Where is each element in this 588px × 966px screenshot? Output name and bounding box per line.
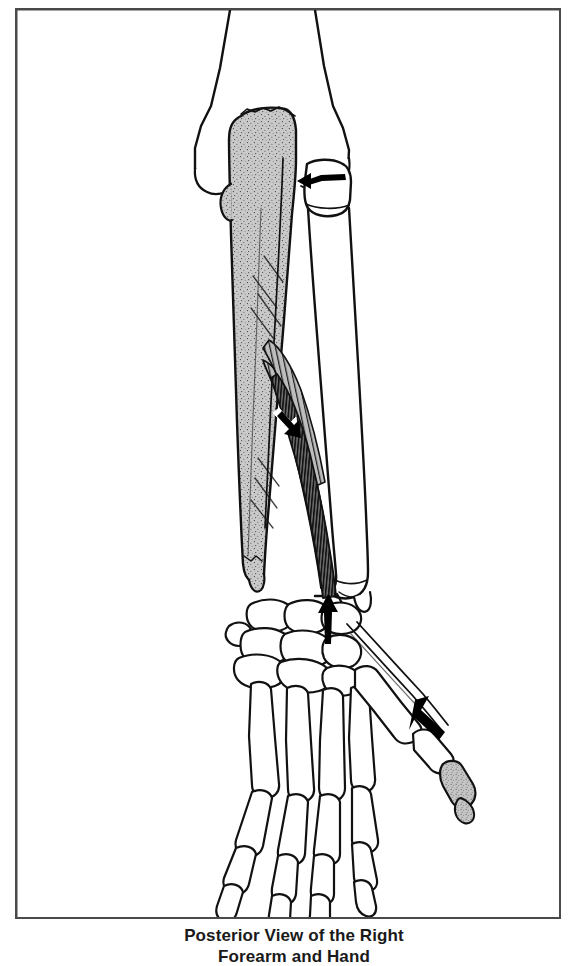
- illustration-plate: [15, 8, 561, 919]
- forearm-hand-illustration: [15, 8, 561, 919]
- bones-carpals: [225, 599, 361, 695]
- figure-caption: Posterior View of the Right Forearm and …: [0, 925, 588, 966]
